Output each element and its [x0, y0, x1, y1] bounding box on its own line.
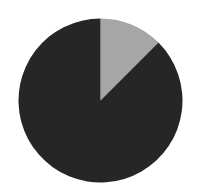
pie-chart [0, 0, 202, 190]
pie-slices [18, 19, 182, 183]
